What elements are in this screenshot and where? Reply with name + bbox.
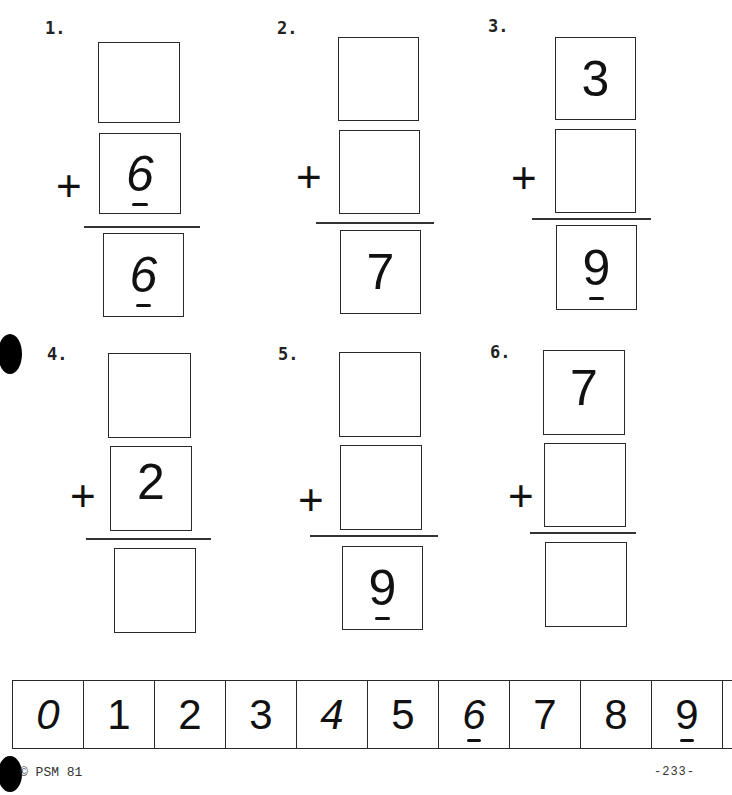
sum-box[interactable] xyxy=(114,548,196,633)
addend-top-value: 7 xyxy=(570,363,598,413)
problem-number: 4. xyxy=(47,344,67,364)
number-cell-0: 0 xyxy=(13,681,84,748)
sum-box[interactable]: 7 xyxy=(340,230,421,314)
number-strip: 0 1 2 3 4 5 6 7 8 9 xyxy=(12,680,732,749)
copyright-text: © PSM 81 xyxy=(20,765,82,780)
number-cell-9: 9 xyxy=(652,681,723,748)
addend-middle-box[interactable]: 2 xyxy=(110,446,192,531)
plus-sign: + xyxy=(70,474,96,518)
sum-line xyxy=(532,218,651,220)
number-cell-5: 5 xyxy=(368,681,439,748)
sum-box[interactable]: 6 xyxy=(103,233,184,317)
addend-middle-box[interactable] xyxy=(340,445,422,530)
number-strip-value: 4 xyxy=(320,694,343,736)
plus-sign: + xyxy=(56,164,82,208)
sum-box[interactable]: 9 xyxy=(342,546,423,630)
problem-number: 3. xyxy=(488,16,508,36)
sum-line xyxy=(86,538,211,540)
addend-middle-box[interactable] xyxy=(555,129,636,213)
problem-number: 1. xyxy=(45,18,65,38)
number-strip-value: 2 xyxy=(178,694,201,736)
sum-value: 6 xyxy=(130,250,158,300)
number-cell-1: 1 xyxy=(84,681,155,748)
sum-line xyxy=(310,535,438,537)
addend-middle-box[interactable] xyxy=(544,443,626,527)
sum-line xyxy=(84,226,200,228)
addend-top-box[interactable] xyxy=(108,353,191,438)
plus-sign: + xyxy=(508,474,534,518)
number-strip-value: 6 xyxy=(462,694,485,736)
addend-top-box[interactable]: 3 xyxy=(555,37,636,120)
sum-line xyxy=(530,532,636,534)
sum-value: 7 xyxy=(367,247,395,297)
number-cell-8: 8 xyxy=(581,681,652,748)
number-cell-2: 2 xyxy=(155,681,226,748)
number-strip-value: 5 xyxy=(391,694,414,736)
plus-sign: + xyxy=(298,478,324,522)
number-strip-value: 0 xyxy=(36,694,59,736)
sum-value: 9 xyxy=(369,563,397,613)
number-strip-value: 7 xyxy=(533,694,556,736)
addend-top-box[interactable] xyxy=(338,37,419,121)
problem-number: 5. xyxy=(278,344,298,364)
problem-number: 2. xyxy=(277,18,297,38)
sum-line xyxy=(316,222,434,224)
addend-middle-box[interactable] xyxy=(339,130,420,214)
addend-top-box[interactable]: 7 xyxy=(543,350,625,435)
addend-top-box[interactable] xyxy=(98,42,180,123)
punch-hole xyxy=(0,756,22,792)
number-cell-7: 7 xyxy=(510,681,581,748)
number-strip-value: 3 xyxy=(249,694,272,736)
sum-box[interactable]: 9 xyxy=(556,225,637,310)
punch-hole xyxy=(0,334,22,374)
sum-box[interactable] xyxy=(545,542,627,627)
addend-middle-value: 6 xyxy=(126,149,154,199)
problem-number: 6. xyxy=(490,342,510,362)
addend-middle-value: 2 xyxy=(137,457,165,507)
number-strip-value: 9 xyxy=(675,694,698,736)
sum-value: 9 xyxy=(583,243,611,293)
number-strip-value: 1 xyxy=(107,694,130,736)
addend-top-box[interactable] xyxy=(339,352,421,437)
number-cell-3: 3 xyxy=(226,681,297,748)
addend-top-value: 3 xyxy=(582,54,610,104)
number-cell-6: 6 xyxy=(439,681,510,748)
number-cell-4: 4 xyxy=(297,681,368,748)
plus-sign: + xyxy=(296,155,322,199)
plus-sign: + xyxy=(511,156,537,200)
page-number: -233- xyxy=(654,765,695,779)
addend-middle-box[interactable]: 6 xyxy=(99,133,181,214)
number-strip-value: 8 xyxy=(604,694,627,736)
